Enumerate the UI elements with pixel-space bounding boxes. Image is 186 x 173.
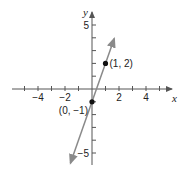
- data-point: [103, 61, 108, 66]
- point-label: (0, −1): [59, 105, 88, 116]
- line-series-upper: [92, 38, 114, 100]
- x-tick-label: −2: [59, 92, 71, 103]
- y-tick-label: 5: [83, 20, 89, 31]
- graph-container: −4−2245−5xy(0, −1)(1, 2): [0, 0, 186, 173]
- point-label: (1, 2): [110, 58, 133, 69]
- x-axis-label: x: [171, 92, 177, 104]
- x-tick-label: 4: [143, 92, 149, 103]
- data-point: [89, 99, 94, 104]
- y-axis-label: y: [82, 6, 88, 18]
- line-graph: −4−2245−5xy(0, −1)(1, 2): [0, 0, 186, 173]
- x-tick-label: 2: [116, 92, 122, 103]
- y-tick-label: −5: [78, 148, 90, 159]
- x-tick-label: −4: [32, 92, 44, 103]
